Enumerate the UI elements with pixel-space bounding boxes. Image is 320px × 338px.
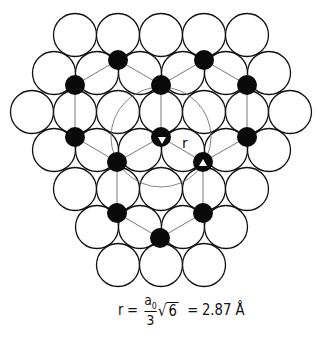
site-dot — [193, 203, 213, 223]
site-dot — [194, 50, 214, 70]
atom-circle — [140, 168, 183, 211]
formula-denominator: 3 — [147, 312, 155, 327]
atom-circle — [54, 168, 97, 211]
site-dot — [237, 75, 257, 95]
site-dot — [107, 203, 127, 223]
site-dot — [237, 127, 257, 147]
formula-numerator: a0 — [144, 293, 157, 313]
radical-sign: √ — [158, 301, 167, 320]
radicand: 6 — [167, 302, 179, 320]
distance-label-r: r — [182, 135, 188, 151]
atom-circle — [140, 14, 183, 57]
atom-circle — [183, 244, 226, 287]
site-dot — [151, 75, 171, 95]
atom-circle — [226, 14, 269, 57]
atom-circle — [11, 91, 54, 134]
distance-formula: r = a0 3 √ 6 = 2.87 Å — [118, 294, 245, 326]
site-dot — [107, 152, 127, 172]
site-dot — [65, 127, 85, 147]
formula-equals-2: = — [187, 301, 198, 319]
formula-fraction: a0 3 — [144, 293, 157, 328]
atom-circle — [226, 168, 269, 211]
site-dot — [65, 75, 85, 95]
atom-circle — [54, 14, 97, 57]
formula-value: 2.87 Å — [202, 301, 245, 319]
site-dot — [150, 228, 170, 248]
formula-sqrt: √ 6 — [158, 301, 179, 320]
close-packed-lattice-diagram: r — [0, 0, 320, 338]
formula-equals: = — [127, 301, 138, 319]
formula-lhs: r — [118, 301, 123, 319]
atom-circle — [140, 244, 183, 287]
atom-circle — [97, 244, 140, 287]
atom-circle — [269, 91, 312, 134]
site-dot — [108, 50, 128, 70]
numerator-subscript: 0 — [152, 300, 157, 310]
